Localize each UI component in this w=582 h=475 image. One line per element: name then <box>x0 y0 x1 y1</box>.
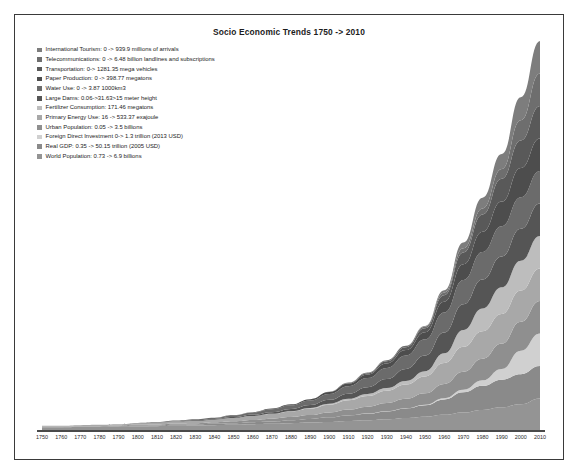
x-tick-label: 1920 <box>362 434 374 440</box>
x-tick-label: 1940 <box>400 434 412 440</box>
x-tick-label: 1840 <box>208 434 220 440</box>
x-tick-label: 1980 <box>477 434 489 440</box>
x-tick-label: 1750 <box>36 434 48 440</box>
x-tick-label: 1950 <box>419 434 431 440</box>
x-tick-label: 1910 <box>342 434 354 440</box>
x-tick-label: 1820 <box>170 434 182 440</box>
x-tick-label: 1770 <box>74 434 86 440</box>
x-axis-line <box>37 430 545 432</box>
x-tick-label: 1810 <box>151 434 163 440</box>
x-tick-label: 1760 <box>55 434 67 440</box>
x-tick-label: 2000 <box>515 434 527 440</box>
x-tick-label: 1850 <box>228 434 240 440</box>
chart-frame: Socio Economic Trends 1750 -> 2010 Inter… <box>14 14 564 460</box>
x-tick-label: 1870 <box>266 434 278 440</box>
area-chart-svg <box>37 37 545 431</box>
x-tick-label: 2010 <box>534 434 546 440</box>
x-tick-label: 1970 <box>457 434 469 440</box>
x-tick-label: 1960 <box>438 434 450 440</box>
page-title: Socio Economic Trends 1750 -> 2010 <box>15 27 563 37</box>
x-tick-label: 1880 <box>285 434 297 440</box>
x-tick-label: 1780 <box>93 434 105 440</box>
x-tick-label: 1930 <box>381 434 393 440</box>
x-tick-label: 1830 <box>189 434 201 440</box>
x-tick-label: 1890 <box>304 434 316 440</box>
x-axis-tick-labels: 1750176017701780179018001810182018301840… <box>37 434 545 448</box>
x-tick-label: 1860 <box>247 434 259 440</box>
x-tick-label: 1790 <box>113 434 125 440</box>
x-tick-label: 1900 <box>323 434 335 440</box>
x-tick-label: 1990 <box>496 434 508 440</box>
stacked-area-plot <box>37 37 545 431</box>
x-tick-label: 1800 <box>132 434 144 440</box>
